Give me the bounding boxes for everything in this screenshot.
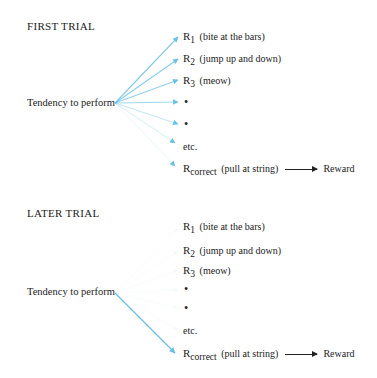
- arrow-icon: [115, 228, 178, 293]
- response-r1: R1 (bite at the bars): [183, 30, 265, 43]
- response-r3: R3 (meow): [183, 264, 231, 277]
- arrow-icon: [115, 293, 178, 308]
- response-bullet: •: [184, 302, 188, 314]
- response-bullet: •: [184, 283, 188, 295]
- long-arrow-icon: [285, 169, 317, 170]
- response-r3: R3 (meow): [183, 74, 231, 87]
- response-bullet: •: [184, 96, 188, 108]
- arrow-icon: [115, 80, 178, 103]
- response-correct: Rcorrect (pull at string) Reward: [183, 162, 355, 175]
- response-etc: etc.: [183, 325, 197, 337]
- response-r2: R2 (jump up and down): [183, 52, 281, 65]
- reward-label: Reward: [323, 163, 354, 174]
- arrow-icon: [115, 102, 178, 103]
- arrow-icon: [115, 37, 178, 103]
- response-correct: Rcorrect (pull at string) Reward: [183, 347, 355, 360]
- arrow-icon: [115, 290, 178, 293]
- long-arrow-icon: [285, 354, 317, 355]
- response-bullet: •: [184, 118, 188, 130]
- response-etc: etc.: [183, 141, 197, 153]
- arrow-icon: [115, 103, 175, 143]
- response-r1: R1 (bite at the bars): [183, 220, 265, 233]
- response-r2: R2 (jump up and down): [183, 244, 281, 257]
- arrow-icon: [115, 251, 178, 293]
- later-trial-section: LATER TRIAL Tendency to perform R1 (bite…: [0, 190, 377, 378]
- arrow-icon: [115, 59, 178, 103]
- arrow-icon: [115, 270, 178, 293]
- reward-label: Reward: [323, 348, 354, 359]
